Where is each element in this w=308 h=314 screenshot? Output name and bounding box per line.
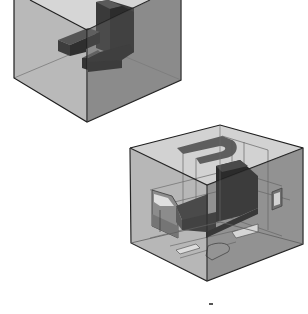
- top-cube: [14, 0, 181, 122]
- isometric-illustration: [0, 0, 308, 314]
- figure-canvas: Enclosing cube with U-bracket part Enclo…: [0, 0, 308, 314]
- stray-mark: [209, 303, 213, 305]
- bottom-cube: [130, 125, 303, 281]
